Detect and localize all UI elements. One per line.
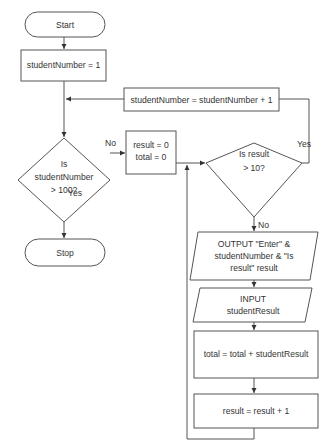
increment-result-label: result = result + 1	[223, 406, 290, 416]
edge-label-result-no: No	[258, 220, 269, 230]
init-result-line-2: total = 0	[136, 152, 167, 162]
input-line-2: studentResult	[227, 306, 280, 316]
start-terminator: Start	[25, 12, 105, 37]
output-line-1: OUTPUT "Enter" &	[218, 239, 291, 249]
input-result-io: INPUT studentResult	[193, 288, 312, 322]
decision-student-line-1: Is	[61, 159, 68, 169]
decision-result-line-2: > 10?	[243, 163, 265, 173]
increment-student-process: studentNumber = studentNumber + 1	[124, 88, 279, 111]
init-student-label: studentNumber = 1	[27, 60, 101, 70]
stop-label: Stop	[56, 248, 74, 258]
flowchart: Start studentNumber = 1 studentNumber = …	[0, 0, 325, 448]
output-line-3: result" result	[230, 263, 278, 273]
output-prompt-io: OUTPUT "Enter" & studentNumber & "Is res…	[190, 232, 318, 280]
decision-student-line-2: studentNumber	[35, 172, 94, 182]
increment-result-process: result = result + 1	[194, 394, 318, 428]
increment-student-label: studentNumber = studentNumber + 1	[131, 95, 273, 105]
init-result-line-1: result = 0	[133, 140, 169, 150]
edge-label-student-no: No	[105, 138, 116, 148]
edge-decision-result-yes	[279, 99, 309, 163]
edge-label-result-yes: Yes	[297, 139, 311, 149]
output-line-2: studentNumber & "Is	[215, 251, 294, 261]
start-label: Start	[56, 20, 75, 30]
accumulate-total-label: total = total + studentResult	[204, 349, 309, 359]
init-result-total-process: result = 0 total = 0	[126, 131, 176, 174]
decision-result: Is result > 10?	[206, 143, 302, 217]
stop-terminator: Stop	[25, 239, 105, 266]
decision-result-line-1: Is result	[239, 149, 270, 159]
edge-label-student-yes: Yes	[68, 188, 82, 198]
input-line-1: INPUT	[240, 294, 267, 304]
accumulate-total-process: total = total + studentResult	[194, 331, 318, 378]
decision-student-number: Is studentNumber > 100?	[18, 138, 110, 222]
init-student-process: studentNumber = 1	[21, 50, 106, 81]
